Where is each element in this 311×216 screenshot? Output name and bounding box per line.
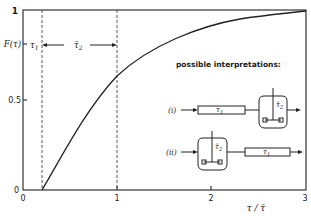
tau1-label: τ1: [30, 40, 39, 51]
plot-frame: [23, 10, 306, 190]
arrowhead-icon: [296, 108, 301, 112]
inset-title: possible interpretations:: [176, 60, 281, 69]
row-ii-label: (ii): [166, 148, 177, 157]
tube-label: τ1: [263, 148, 270, 157]
interpretation-row-i: (i) τ1 τ̄2: [168, 88, 301, 128]
y-tick-label-0.5: 0.5: [8, 96, 21, 105]
y-tick-label-1: 1: [12, 6, 18, 16]
x-tick-label-2: 2: [208, 194, 213, 203]
arrowhead-icon: [193, 150, 198, 154]
x-tick-label-0: 0: [20, 194, 25, 203]
arrowhead-left-icon: [42, 43, 47, 47]
arrowhead-icon: [193, 108, 198, 112]
tank-label: τ̄2: [215, 143, 222, 152]
x-axis-label: τ / τ̄: [247, 203, 267, 213]
interpretation-row-ii: (ii) τ̄2 τ1: [166, 131, 303, 170]
y-tick-label-0: 0: [14, 186, 19, 195]
tube-label: τ1: [216, 106, 223, 115]
x-tick-label-3: 3: [302, 194, 307, 203]
tau2-label: τ̄2: [74, 40, 83, 51]
arrowhead-icon: [298, 150, 303, 154]
y-axis-label: F(τ): [3, 39, 21, 49]
tank-label: τ̄2: [276, 101, 283, 110]
arrowhead-right-icon: [112, 43, 117, 47]
cumulative-distribution-curve-full: [42, 11, 306, 190]
chart-canvas: 1 0.5 0 F(τ) 0 1 2 3 τ / τ̄ τ1 τ̄2 possi…: [0, 0, 311, 216]
x-tick-label-1: 1: [114, 194, 119, 203]
row-i-label: (i): [168, 106, 176, 115]
